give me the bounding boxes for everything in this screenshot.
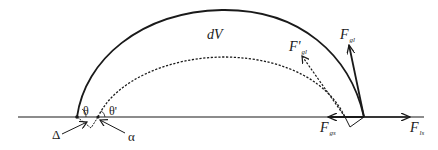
right-offset-triangle <box>345 117 364 127</box>
F-gl-prime-label: F'gl <box>289 40 307 56</box>
inner-droplet-profile <box>98 57 345 117</box>
F-gl-sub: gl <box>350 36 355 44</box>
droplet-diagram <box>0 0 438 150</box>
alpha-pointer <box>100 120 125 133</box>
left-offset-triangle <box>77 117 98 128</box>
theta-label: θ <box>83 105 89 117</box>
alpha-label: α <box>128 130 135 143</box>
F-ls-sub: ls <box>420 129 425 137</box>
F-gs-main: F <box>320 120 329 135</box>
delta-pointer <box>62 122 87 134</box>
F-gl-main: F <box>340 27 349 42</box>
volume-label: dV <box>207 28 223 42</box>
F-gs-label: Fgs <box>320 121 336 137</box>
delta-label: Δ <box>52 128 60 141</box>
F-ls-label: Fls <box>410 121 424 137</box>
F-gs-sub: gs <box>330 129 336 137</box>
contact-point-outer <box>75 115 79 119</box>
F-gl-prime-sub: gl <box>302 48 307 56</box>
F-gl-prime-vector <box>302 56 345 117</box>
F-gl-label: Fgl <box>340 28 355 44</box>
contact-point-inner <box>96 115 99 118</box>
theta-prime-angle-arc <box>101 111 105 117</box>
F-ls-main: F <box>410 120 419 135</box>
F-gl-prime-main: F' <box>289 39 301 54</box>
theta-prime-label: θ' <box>109 105 117 117</box>
